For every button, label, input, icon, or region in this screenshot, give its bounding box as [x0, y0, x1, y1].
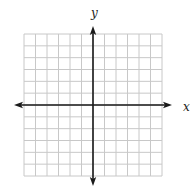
y-axis-label: y	[90, 6, 98, 20]
coordinate-plane-figure: x y	[0, 0, 196, 195]
x-axis-label: x	[183, 100, 190, 114]
axes	[14, 26, 172, 186]
coordinate-plane-svg: x y	[0, 0, 196, 195]
